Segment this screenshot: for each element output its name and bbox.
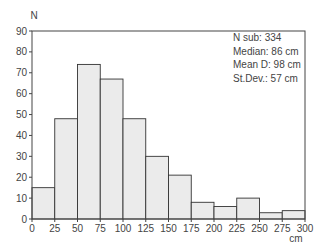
y-tick-label: 50	[16, 109, 28, 120]
y-tick-label: 80	[16, 46, 28, 57]
y-tick-label: 10	[16, 193, 28, 204]
x-tick-label: 0	[29, 223, 35, 234]
x-tick-label: 125	[137, 223, 154, 234]
y-tick-label: 30	[16, 151, 28, 162]
y-axis-label: N	[30, 10, 37, 21]
histogram-bar	[146, 156, 169, 219]
histogram-bar	[78, 64, 101, 219]
x-tick-label: 25	[49, 223, 61, 234]
x-tick-label: 150	[160, 223, 177, 234]
histogram-bar	[100, 79, 123, 219]
stat-median: Median: 86 cm	[233, 45, 301, 59]
histogram-bar	[169, 175, 192, 219]
y-tick-label: 0	[21, 214, 27, 225]
stat-n-sub: N sub: 334	[233, 31, 301, 45]
y-tick-label: 90	[16, 26, 28, 37]
histogram-bar	[237, 198, 260, 219]
x-tick-label: 100	[115, 223, 132, 234]
x-tick-label: 50	[72, 223, 84, 234]
y-tick-label: 40	[16, 130, 28, 141]
x-axis-unit-label: cm	[289, 233, 302, 244]
x-tick-label: 225	[228, 223, 245, 234]
stat-mean: Mean D: 98 cm	[233, 58, 301, 72]
y-axis-ticks: 0102030405060708090	[16, 26, 32, 225]
histogram-bar	[55, 119, 78, 219]
histogram-bar	[282, 211, 305, 219]
histogram-bar	[214, 206, 237, 219]
stats-annotation: N sub: 334 Median: 86 cm Mean D: 98 cm S…	[233, 31, 301, 85]
y-tick-label: 70	[16, 67, 28, 78]
histogram-bar	[191, 202, 214, 219]
x-tick-label: 175	[183, 223, 200, 234]
x-axis-ticks: 0255075100125150175200225250275300	[29, 219, 314, 234]
y-tick-label: 60	[16, 88, 28, 99]
histogram-bar	[123, 119, 146, 219]
y-tick-label: 20	[16, 172, 28, 183]
stat-stdev: St.Dev.: 57 cm	[233, 72, 301, 86]
histogram-bar	[32, 188, 55, 219]
x-tick-label: 75	[95, 223, 107, 234]
x-tick-label: 200	[206, 223, 223, 234]
histogram-bars	[32, 64, 305, 219]
x-tick-label: 250	[251, 223, 268, 234]
histogram-bar	[260, 213, 283, 219]
